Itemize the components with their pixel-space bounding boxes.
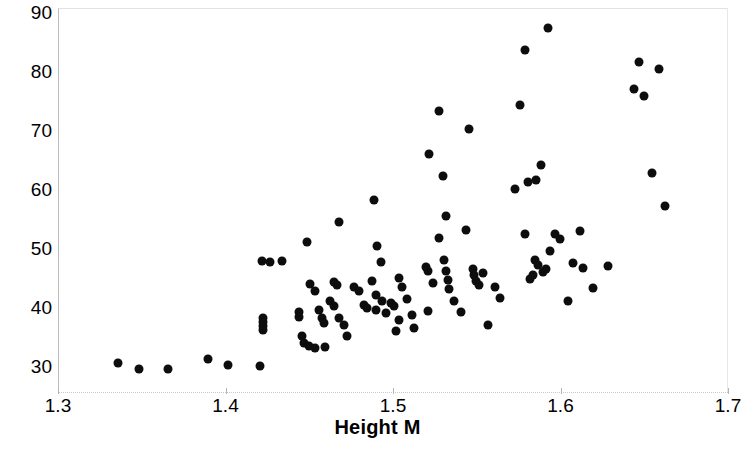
data-point [425,149,434,158]
data-point [390,302,399,311]
data-point [639,92,648,101]
data-point [438,171,447,180]
data-point [441,267,450,276]
data-point [294,313,303,322]
data-point [465,125,474,134]
scatter-plot: Weight kg 30405060708090 1.31.41.51.61.7… [0,0,755,451]
data-point [544,24,553,33]
data-point [545,247,554,256]
data-point [450,297,459,306]
data-point [604,261,613,270]
data-point [495,293,504,302]
data-point [564,296,573,305]
x-tick-label: 1.3 [28,396,88,415]
y-tick-label: 70 [18,120,52,139]
data-point [483,320,492,329]
data-point [647,168,656,177]
data-point [569,259,578,268]
data-point [135,365,144,374]
y-tick-label: 90 [18,2,52,21]
y-tick-label: 80 [18,61,52,80]
data-point [113,358,122,367]
data-point [542,265,551,274]
data-point [381,308,390,317]
data-point [428,278,437,287]
data-point [319,318,328,327]
data-point [368,276,377,285]
data-point [579,263,588,272]
data-point [259,326,268,335]
y-tick-label: 60 [18,179,52,198]
data-point [339,320,348,329]
data-point [369,195,378,204]
data-point [520,229,529,238]
data-point [321,342,330,351]
data-point [532,175,541,184]
data-point [634,58,643,67]
x-tick-label: 1.6 [531,396,591,415]
x-tick-label: 1.5 [363,396,423,415]
data-point [277,257,286,266]
x-axis-title: Height M [0,416,755,439]
data-point [334,217,343,226]
data-point [343,332,352,341]
data-point [435,233,444,242]
data-point [435,107,444,116]
data-point [398,282,407,291]
data-point [462,225,471,234]
data-point [589,283,598,292]
data-point [311,343,320,352]
data-point [371,305,380,314]
data-point [490,283,499,292]
data-point [410,323,419,332]
data-point [475,280,484,289]
data-point [445,284,454,293]
data-point [403,294,412,303]
x-tick-mark [728,388,729,394]
data-point [376,257,385,266]
data-point [395,273,404,282]
data-point [443,276,452,285]
data-point [329,302,338,311]
data-point [654,65,663,74]
data-point [266,257,275,266]
data-point [440,255,449,264]
data-point [575,227,584,236]
data-point [423,307,432,316]
x-tick-mark [561,388,562,394]
x-tick-label: 1.7 [698,396,755,415]
data-point [354,286,363,295]
data-point [204,355,213,364]
plot-area [58,8,728,393]
y-tick-label: 30 [18,356,52,375]
data-point [510,184,519,193]
data-point [391,326,400,335]
data-point [555,235,564,244]
x-tick-mark [58,388,59,394]
data-point [311,287,320,296]
data-point [661,201,670,210]
x-tick-mark [226,388,227,394]
data-point [515,100,524,109]
data-point [333,281,342,290]
data-point [224,361,233,370]
data-point [423,266,432,275]
x-tick-label: 1.4 [196,396,256,415]
data-point [520,46,529,55]
data-point [395,316,404,325]
data-point [163,365,172,374]
y-tick-label: 50 [18,238,52,257]
data-point [529,271,538,280]
data-point [302,237,311,246]
data-point [537,161,546,170]
data-point [478,268,487,277]
x-tick-mark [393,388,394,394]
data-point [441,212,450,221]
data-point [373,242,382,251]
data-point [629,85,638,94]
y-axis-tick-labels: 30405060708090 [8,0,52,451]
data-point [256,361,265,370]
data-point [457,307,466,316]
data-point [408,311,417,320]
y-tick-label: 40 [18,297,52,316]
